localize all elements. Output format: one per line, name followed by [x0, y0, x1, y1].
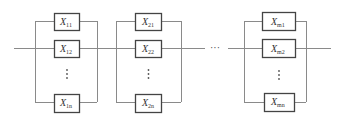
block-x21: X21 — [136, 14, 162, 31]
block-x2n: X2n — [136, 95, 162, 113]
block-x1n: X1n — [55, 95, 80, 113]
vertical-ellipsis — [66, 69, 68, 79]
block-xm2: Xm2 — [263, 40, 296, 58]
parallel-group-1: X11 X12 X1n — [35, 14, 98, 113]
block-x22: X22 — [136, 41, 162, 58]
parallel-group-2: X21 X22 X2n — [116, 14, 182, 113]
block-x11: X11 — [55, 14, 80, 31]
series-parallel-diagram: ··· X11 X12 X1n — [0, 0, 343, 120]
block-x12: X12 — [55, 41, 80, 58]
vertical-ellipsis — [148, 69, 150, 79]
parallel-group-m: Xm1 Xm2 Xmn — [244, 13, 307, 112]
vertical-ellipsis — [278, 70, 280, 80]
block-xm1: Xm1 — [263, 13, 296, 31]
series-ellipsis: ··· — [210, 42, 220, 53]
block-xmn: Xmn — [265, 94, 295, 112]
